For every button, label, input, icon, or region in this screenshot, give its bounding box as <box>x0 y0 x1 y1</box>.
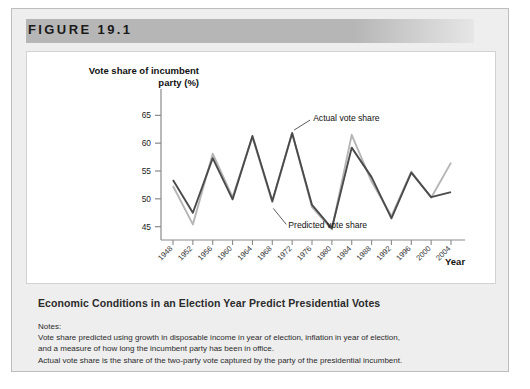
line-chart: 4550556065194819521956196019641968197219… <box>27 52 497 285</box>
x-tick-label: 2000 <box>414 244 432 262</box>
notes-line-1: Vote share predicted using growth in dis… <box>38 332 498 343</box>
y-tick-label: 45 <box>142 222 152 232</box>
x-tick-label: 1964 <box>236 244 254 262</box>
actual-callout-leader <box>294 120 310 130</box>
x-tick-label: 1952 <box>176 244 194 262</box>
figure-caption: Economic Conditions in an Election Year … <box>38 297 380 309</box>
x-tick-label: 1948 <box>156 244 174 262</box>
x-tick-label: 1956 <box>196 244 214 262</box>
notes-heading: Notes: <box>38 321 498 332</box>
x-tick-label: 1980 <box>315 244 333 262</box>
y-tick-label: 60 <box>142 138 152 148</box>
x-tick-label: 1996 <box>394 244 412 262</box>
y-tick-label: 50 <box>142 194 152 204</box>
x-tick-label: 1992 <box>375 244 393 262</box>
predicted-vote-share-annotation: Predicted vote share <box>288 220 367 230</box>
series-line <box>173 133 451 228</box>
x-tick-label: 2004 <box>434 244 452 262</box>
series-line <box>173 133 451 230</box>
notes-line-2: and a measure of how long the incumbent … <box>38 343 498 354</box>
figure-label: FIGURE 19.1 <box>28 22 132 37</box>
actual-vote-share-annotation: Actual vote share <box>313 113 380 123</box>
x-tick-label: 1968 <box>255 244 273 262</box>
x-tick-label: 1960 <box>216 244 234 262</box>
figure-notes: Notes: Vote share predicted using growth… <box>38 321 498 366</box>
x-tick-label: 1976 <box>295 244 313 262</box>
predicted-callout-leader <box>273 208 286 224</box>
figure-card: FIGURE 19.1 Vote share of incumbent part… <box>11 8 509 372</box>
x-tick-label: 1972 <box>275 244 293 262</box>
x-tick-label: 1984 <box>335 244 353 262</box>
y-tick-label: 55 <box>142 166 152 176</box>
chart-panel: Vote share of incumbent party (%) Year 4… <box>26 51 496 284</box>
notes-line-3: Actual vote share is the share of the tw… <box>38 355 498 366</box>
header-bar-fade <box>354 19 474 43</box>
x-tick-label: 1988 <box>355 244 373 262</box>
y-tick-label: 65 <box>142 110 152 120</box>
